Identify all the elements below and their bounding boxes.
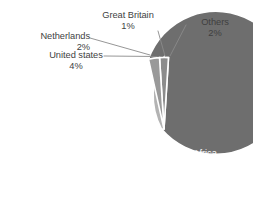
slice-label-great-britain-percent: 1% — [85, 21, 171, 32]
leader-line-united-states — [104, 56, 157, 57]
slice-label-united-states-name: United states — [49, 50, 103, 60]
slice-label-south-africa-name: South Africa — [167, 148, 217, 158]
slice-label-united-states-percent: 4% — [48, 61, 104, 72]
slice-label-great-britain-name: Great Britain — [102, 10, 154, 20]
slice-label-others-percent: 2% — [186, 28, 244, 39]
slice-label-others-name: Others — [201, 17, 229, 27]
slice-label-netherlands-name: Netherlands — [40, 31, 90, 41]
slice-label-south-africa-percent: 91% — [150, 159, 234, 170]
slice-label-great-britain: Great Britain 1% — [85, 10, 171, 33]
slice-label-united-states: United states 4% — [48, 50, 104, 73]
slice-label-others: Others 2% — [186, 17, 244, 40]
pie-chart: Great Britain 1% Others 2% Netherlands 2… — [0, 0, 253, 220]
slice-label-south-africa: South Africa 91% — [150, 148, 234, 171]
